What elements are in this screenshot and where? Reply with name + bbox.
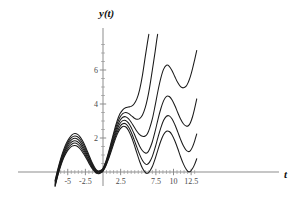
y-tick-label: 2: [94, 134, 98, 143]
x-tick-label: 7.5: [151, 177, 161, 186]
chart-curve: [55, 116, 197, 186]
chart-svg: -5-2.52.57.51012.5246 y(t) t: [0, 0, 299, 211]
x-tick-label: 2.5: [116, 177, 126, 186]
chart-curve: [55, 34, 149, 180]
chart-curve: [55, 96, 197, 185]
x-axis-title: t: [284, 168, 288, 180]
curve-family-group: [55, 34, 197, 186]
x-tick-label: -5: [64, 177, 71, 186]
axes-group: [18, 28, 279, 186]
y-tick-label: 6: [94, 66, 98, 75]
chart-curve: [55, 50, 197, 183]
x-tick-label: 10: [170, 177, 178, 186]
y-tick-label: 4: [94, 100, 98, 109]
minor-ticks-group: [61, 45, 195, 175]
x-tick-label: 12.5: [184, 177, 198, 186]
plot-container: -5-2.52.57.51012.5246 y(t) t: [0, 0, 299, 211]
x-tick-label: -2.5: [79, 177, 92, 186]
y-axis-title: y(t): [97, 7, 114, 20]
